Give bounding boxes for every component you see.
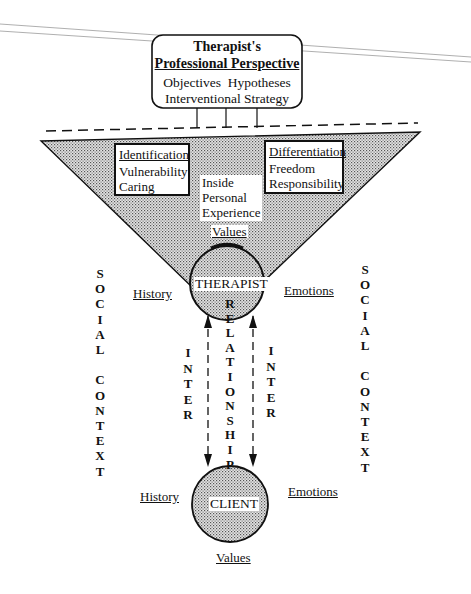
- letter: X: [93, 448, 107, 463]
- letter: N: [181, 361, 195, 377]
- inter-right-vertical-text: I N T E R: [264, 343, 278, 421]
- arrowhead-down-icon: [249, 454, 257, 467]
- letter: E: [358, 429, 372, 444]
- personal-label: Personal: [202, 191, 247, 204]
- letter: O: [358, 384, 372, 399]
- letter: N: [93, 403, 107, 418]
- letter: N: [264, 359, 278, 375]
- identification-vulnerability: Vulnerability: [119, 165, 188, 178]
- perspective-items-line2: Interventional Strategy: [152, 92, 302, 106]
- letter: T: [181, 376, 195, 392]
- letter: A: [358, 323, 372, 338]
- identification-box: Identification Vulnerability Caring: [114, 143, 190, 196]
- letter: T: [358, 460, 372, 475]
- therapist-history-label: History: [133, 287, 172, 300]
- client-history-label: History: [140, 490, 179, 503]
- letter: O: [358, 277, 372, 292]
- letter-spacer: [93, 357, 107, 372]
- differentiation-responsibility: Responsibility: [269, 177, 344, 190]
- arrowhead-up-icon: [249, 315, 257, 328]
- letter: E: [181, 392, 195, 408]
- client-label: CLIENT: [209, 497, 259, 511]
- therapist-emotions-label: Emotions: [284, 284, 334, 297]
- inter-left-vertical-text: I N T E R: [181, 345, 195, 423]
- social-context-left-vertical-text: S O C I A L C O N T E X T: [93, 266, 107, 479]
- letter-spacer: [358, 353, 372, 368]
- letter: I: [264, 343, 278, 359]
- letter: O: [93, 388, 107, 403]
- inside-label: Inside: [202, 176, 234, 189]
- letter: C: [358, 292, 372, 307]
- letter: I: [93, 312, 107, 327]
- letter: E: [264, 390, 278, 406]
- letter: R: [264, 405, 278, 421]
- letter: L: [93, 342, 107, 357]
- social-context-right-vertical-text: S O C I A L C O N T E X T: [358, 262, 372, 475]
- letter: O: [223, 385, 237, 400]
- letter: T: [358, 414, 372, 429]
- letter: X: [358, 444, 372, 459]
- dashed-boundary: [46, 123, 418, 131]
- letter: T: [264, 374, 278, 390]
- identification-heading: Identification: [119, 148, 189, 161]
- letter: T: [93, 464, 107, 479]
- perspective-items-line1: Objectives Hypotheses: [152, 76, 302, 90]
- arrowhead-down-icon: [204, 454, 212, 467]
- differentiation-heading: Differentiation: [269, 145, 346, 158]
- letter: H: [223, 428, 237, 443]
- letter: T: [93, 418, 107, 433]
- letter: C: [93, 372, 107, 387]
- client-values-label: Values: [216, 551, 251, 564]
- letter: P: [223, 458, 237, 473]
- letter: E: [93, 433, 107, 448]
- letter: I: [358, 308, 372, 323]
- client-emotions-label: Emotions: [288, 485, 338, 498]
- letter: L: [223, 326, 237, 341]
- letter: I: [223, 370, 237, 385]
- letter: I: [223, 443, 237, 458]
- therapist-label: THERAPIST: [194, 277, 269, 291]
- letter: S: [93, 266, 107, 281]
- letter: E: [223, 312, 237, 327]
- relationship-vertical-text: R E L A T I O N S H I P: [223, 297, 237, 472]
- letter: O: [93, 281, 107, 296]
- letter: R: [223, 297, 237, 312]
- letter: C: [93, 296, 107, 311]
- letter: R: [181, 407, 195, 423]
- identification-caring: Caring: [119, 180, 154, 193]
- experience-label: Experience: [202, 206, 260, 219]
- letter: N: [223, 399, 237, 414]
- letter: T: [223, 355, 237, 370]
- therapist-values-label: Values: [211, 225, 248, 238]
- letter: C: [358, 368, 372, 383]
- letter: A: [223, 341, 237, 356]
- letter: N: [358, 399, 372, 414]
- perspective-title-line1: Therapist's: [152, 40, 302, 54]
- perspective-title-line2: Professional Perspective: [152, 57, 302, 71]
- letter: L: [358, 338, 372, 353]
- inside-experience-block: Inside Personal Experience: [200, 175, 262, 221]
- letter: S: [358, 262, 372, 277]
- letter: A: [93, 327, 107, 342]
- differentiation-box: Differentiation Freedom Responsibility: [264, 140, 344, 194]
- letter: S: [223, 414, 237, 429]
- letter: I: [181, 345, 195, 361]
- differentiation-freedom: Freedom: [269, 162, 315, 175]
